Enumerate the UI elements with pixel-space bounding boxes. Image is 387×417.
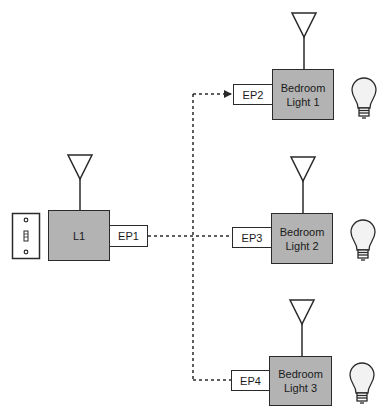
endpoint-ep4: EP4: [231, 370, 270, 391]
bedroom-light-1-box: Bedroom Light 1: [272, 69, 334, 120]
controller-label: L1: [73, 229, 85, 243]
antenna-icon: [291, 157, 315, 213]
diagram-canvas: [0, 0, 387, 417]
light-bulb-icon: [350, 363, 374, 403]
bedroom-light-3-box: Bedroom Light 3: [269, 356, 332, 406]
endpoint-label: EP3: [242, 232, 263, 244]
endpoint-ep3: EP3: [232, 227, 272, 248]
device-label-line2: Light 1: [281, 95, 326, 109]
endpoint-ep1: EP1: [109, 225, 148, 247]
light-bulb-icon: [351, 220, 375, 260]
wall-switch-icon: [13, 214, 40, 259]
antenna-icon: [292, 13, 316, 69]
device-label-line2: Light 2: [280, 239, 325, 253]
device-label-line1: Bedroom: [280, 225, 325, 239]
antenna-icon: [68, 155, 92, 210]
device-label-line2: Light 3: [278, 381, 323, 395]
endpoint-ep2: EP2: [233, 84, 273, 105]
connection-lines: [148, 94, 231, 380]
device-label-line1: Bedroom: [281, 81, 326, 95]
bedroom-light-2-box: Bedroom Light 2: [271, 213, 333, 264]
endpoint-label: EP4: [240, 375, 261, 387]
device-label-line1: Bedroom: [278, 367, 323, 381]
endpoint-label: EP1: [118, 230, 139, 242]
light-bulb-icon: [352, 78, 376, 118]
endpoint-label: EP2: [243, 89, 264, 101]
antenna-icon: [290, 300, 314, 356]
controller-l1-box: L1: [48, 210, 110, 261]
